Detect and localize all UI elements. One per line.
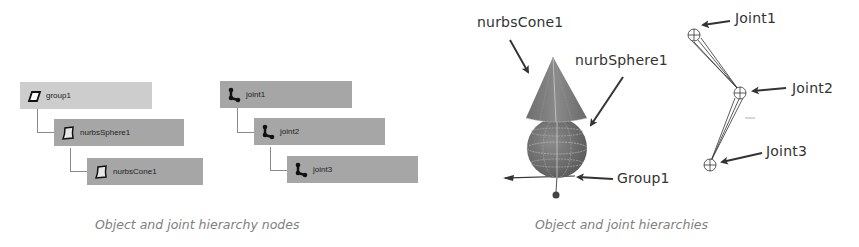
label-joint1: Joint1 (735, 10, 776, 26)
joint3-sphere (704, 159, 716, 171)
scene-illustration (0, 0, 859, 247)
nurbs-sphere-object (527, 118, 587, 178)
arrow-joint3 (722, 153, 762, 162)
label-joint2: Joint2 (792, 80, 833, 96)
label-nurbscone1: nurbsCone1 (477, 14, 563, 30)
arrow-group1 (578, 177, 613, 179)
label-group1: Group1 (617, 170, 670, 186)
arrow-nurbssphere (591, 77, 623, 125)
arrow-joint2 (753, 88, 786, 91)
joint2-sphere (734, 87, 746, 99)
arrow-nurbscone (510, 40, 528, 72)
joint1-sphere (688, 29, 700, 41)
group1-pivot-axis (503, 175, 575, 199)
joint-chain (688, 29, 755, 171)
arrow-joint1 (703, 21, 730, 25)
label-joint3: Joint3 (766, 143, 807, 159)
right-caption: Object and joint hierarchies (535, 217, 708, 232)
label-nurbsphere1: nurbSphere1 (575, 52, 668, 68)
